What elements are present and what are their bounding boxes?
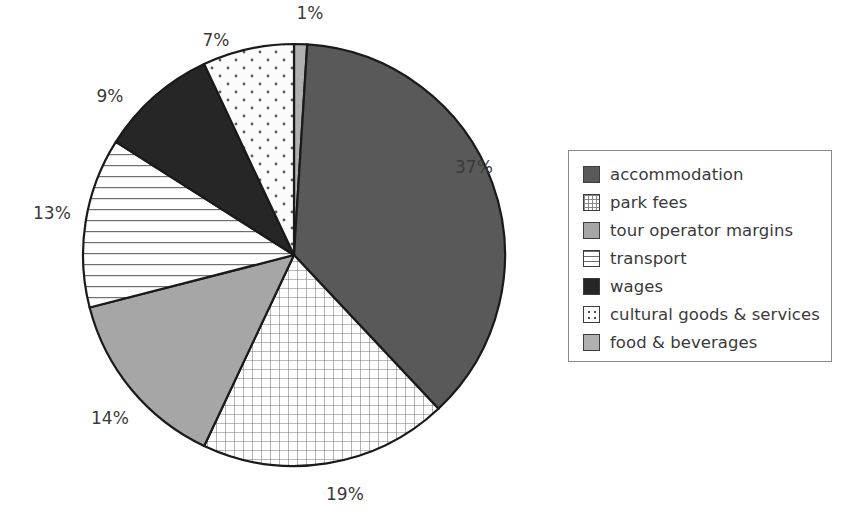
pie-slices-group	[83, 44, 505, 466]
legend-label-accommodation: accommodation	[610, 165, 743, 184]
legend-swatch-wages	[583, 278, 600, 295]
pie-chart: 37%19%14%13%9%7%1% accommodation park fe…	[0, 0, 860, 527]
legend-label-transport: transport	[610, 249, 687, 268]
legend-item-food-beverages[interactable]: food & beverages	[583, 328, 831, 356]
legend-item-wages[interactable]: wages	[583, 272, 831, 300]
legend-swatch-accommodation	[583, 166, 600, 183]
legend-swatch-park-fees	[583, 194, 600, 211]
legend-label-cultural-goods-services: cultural goods & services	[610, 305, 820, 324]
pie-label-tour-operator-margins: 14%	[91, 408, 129, 428]
legend-item-transport[interactable]: transport	[583, 244, 831, 272]
chart-legend: accommodation park fees tour operator ma…	[568, 150, 832, 362]
legend-swatch-cultural-goods-services	[583, 306, 600, 323]
legend-label-wages: wages	[610, 277, 663, 296]
legend-item-cultural-goods-services[interactable]: cultural goods & services	[583, 300, 831, 328]
legend-item-accommodation[interactable]: accommodation	[583, 160, 831, 188]
legend-label-tour-operator-margins: tour operator margins	[610, 221, 793, 240]
legend-label-park-fees: park fees	[610, 193, 687, 212]
legend-swatch-tour-operator-margins	[583, 222, 600, 239]
pie-label-transport: 13%	[33, 203, 71, 223]
pie-label-cultural-goods-services: 7%	[202, 30, 229, 50]
legend-swatch-transport	[583, 250, 600, 267]
pie-label-food-beverages: 1%	[296, 3, 323, 23]
legend-label-food-beverages: food & beverages	[610, 333, 757, 352]
pie-label-wages: 9%	[96, 86, 123, 106]
pie-label-park-fees: 19%	[326, 484, 364, 504]
legend-item-tour-operator-margins[interactable]: tour operator margins	[583, 216, 831, 244]
legend-item-park-fees[interactable]: park fees	[583, 188, 831, 216]
legend-swatch-food-beverages	[583, 334, 600, 351]
pie-label-accommodation: 37%	[455, 157, 493, 177]
